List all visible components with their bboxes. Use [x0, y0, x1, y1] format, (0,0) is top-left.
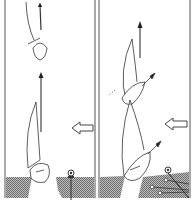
boat-right-bottom — [122, 100, 161, 181]
dock-right — [100, 172, 189, 198]
boat-right-top — [108, 39, 155, 104]
dock-left — [6, 177, 94, 198]
sailing-diagram — [0, 0, 195, 205]
heading-arrow-left — [39, 72, 44, 132]
boat-left-top — [26, 2, 47, 60]
diagram-svg — [0, 0, 195, 205]
heading-arrow-right — [138, 21, 143, 58]
boat-left-bottom — [27, 102, 49, 183]
wind-arrow-icon-left — [72, 122, 93, 134]
wind-arrow-icon-right — [165, 118, 187, 130]
panel-left — [5, 0, 95, 198]
